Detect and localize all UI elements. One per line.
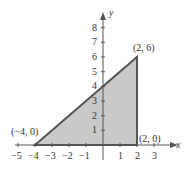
x-tick-label: −3 xyxy=(45,151,56,161)
point-label: (2, 6) xyxy=(133,43,155,53)
y-tick-label: 6 xyxy=(92,52,97,62)
x-tick-label: 1 xyxy=(118,151,123,161)
x-tick-label: −4 xyxy=(28,151,39,161)
y-tick-label: 2 xyxy=(92,111,97,121)
x-tick-label: −1 xyxy=(79,151,90,161)
x-axis-label: x xyxy=(176,140,180,150)
y-axis-arrow-icon xyxy=(100,12,106,20)
shaded-triangle xyxy=(35,57,137,145)
x-tick-label: −5 xyxy=(11,151,22,161)
y-tick-label: 4 xyxy=(92,81,97,91)
y-tick-label: 5 xyxy=(92,67,97,77)
y-axis-label: y xyxy=(109,8,113,18)
y-tick-label: 7 xyxy=(92,37,97,47)
chart: −5 −4 −3 −2 −1 1 2 3 1 2 3 4 5 6 7 8 x y… xyxy=(0,0,190,169)
point-label: (2, 0) xyxy=(139,134,161,144)
point-label: (−4, 0) xyxy=(11,127,38,137)
y-tick-label: 8 xyxy=(92,23,97,33)
y-tick-label: 3 xyxy=(92,96,97,106)
x-tick-label: −2 xyxy=(62,151,73,161)
y-tick-label: 1 xyxy=(92,125,97,135)
x-tick-label: 2 xyxy=(135,151,140,161)
x-tick-label: 3 xyxy=(152,151,157,161)
